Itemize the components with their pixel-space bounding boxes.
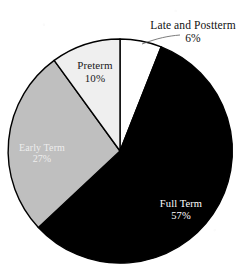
slice-label-early-term: Early Term 27% [6,131,78,176]
slice-percent-text: 6% [146,32,240,45]
slice-label-text: Full Term [160,198,202,209]
slice-percent-text: 27% [6,153,78,164]
pie-chart: Late and Postterm 6% Preterm 10% Early T… [0,0,244,274]
slice-percent-text: 57% [144,210,218,222]
slice-label-text: Late and Postterm [150,19,235,31]
slice-label-text: Early Term [19,142,65,153]
slice-label-preterm: Preterm 10% [62,47,128,96]
slice-label-text: Preterm [77,59,113,71]
slice-label-late-and-postterm: Late and Postterm 6% [146,6,240,58]
slice-label-full-term: Full Term 57% [144,186,218,233]
slice-percent-text: 10% [62,72,128,84]
